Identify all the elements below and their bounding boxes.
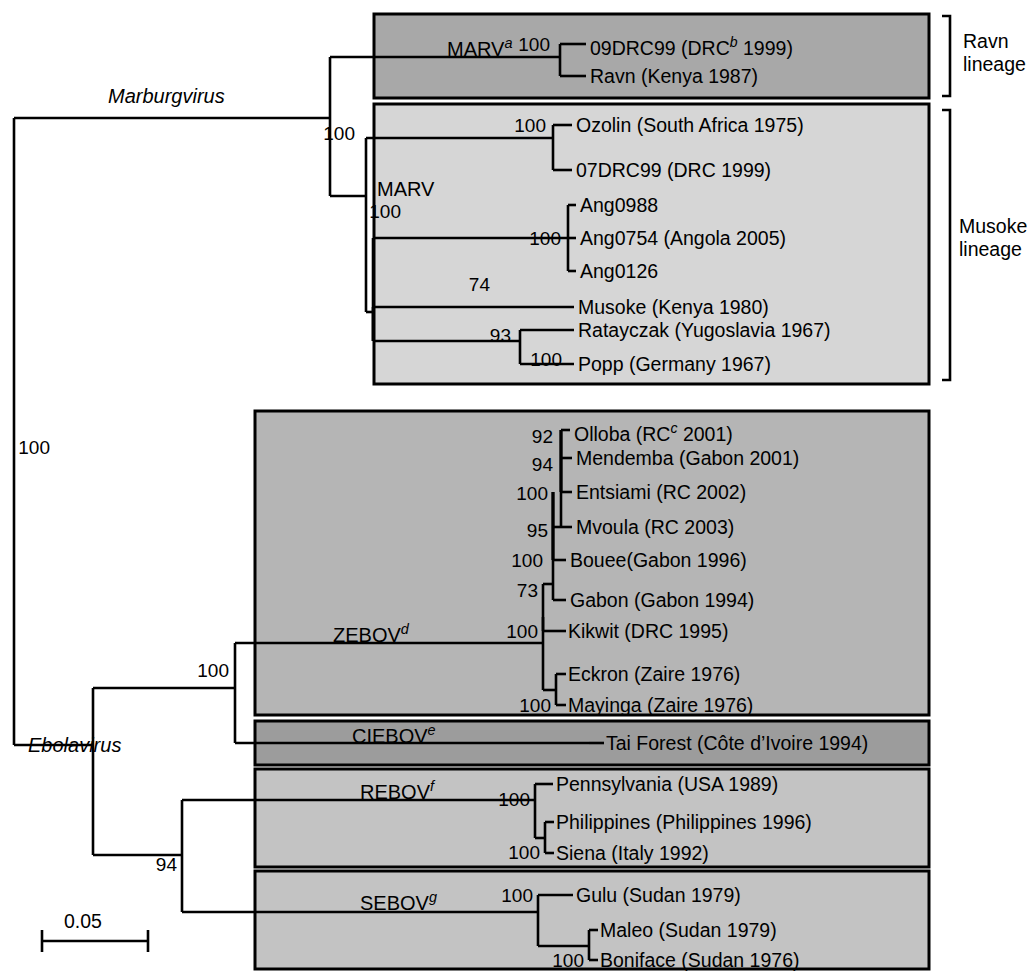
lineage-label-musoke-line1: Musoke [959, 215, 1027, 238]
bootstrap-musoke-ratayczak-popp: 93 [490, 326, 511, 345]
bootstrap-bouee-node: 100 [511, 551, 543, 570]
tip-label-ang0754: Ang0754 (Angola 2005) [580, 229, 786, 249]
clade-label-ciebov: CIEBOVe [352, 723, 436, 746]
tip-label-pennsylvania: Pennsylvania (USA 1989) [556, 775, 778, 795]
tip-label-mvoula: Mvoula (RC 2003) [576, 518, 734, 538]
tip-label-gabon: Gabon (Gabon 1994) [570, 591, 754, 611]
tip-label-philippines: Philippines (Philippines 1996) [556, 813, 812, 833]
tip-label-tai-forest: Tai Forest (Côte d’Ivoire 1994) [606, 734, 868, 754]
tip-label-ratayczak: Ratayczak (Yugoslavia 1967) [578, 321, 831, 341]
tip-label-07drc99: 07DRC99 (DRC 1999) [576, 161, 771, 181]
tip-label-kikwit: Kikwit (DRC 1995) [568, 622, 728, 642]
bootstrap-ozolin-07drc99: 100 [514, 116, 546, 135]
tip-label-musoke: Musoke (Kenya 1980) [578, 298, 769, 318]
bootstrap-philippines-siena: 100 [508, 843, 540, 862]
bootstrap-musoke-subclade: 74 [469, 275, 490, 294]
lineage-label-musoke: Musoke lineage [959, 215, 1027, 261]
tip-label-entsiami: Entsiami (RC 2002) [576, 483, 746, 503]
bootstrap-maleo-boniface: 100 [552, 951, 584, 970]
bootstrap-filovirus-root: 100 [18, 438, 50, 457]
bootstrap-musoke-crown: 100 [369, 202, 401, 221]
tip-label-bouee: Bouee(Gabon 1996) [570, 551, 747, 571]
bootstrap-rebov-crown: 100 [498, 790, 530, 809]
clade-label-sebov: SEBOVg [360, 890, 437, 913]
lineage-label-ravn-line2: lineage [963, 53, 1026, 76]
tip-label-ravn: Ravn (Kenya 1987) [590, 67, 758, 87]
bootstrap-marburgvirus-crown: 100 [323, 124, 355, 143]
scale-bar-label: 0.05 [64, 912, 102, 932]
tip-label-olloba: Olloba (RCc 2001) [574, 421, 733, 444]
bootstrap-ratayczak-popp: 100 [530, 350, 562, 369]
tip-label-maleo: Maleo (Sudan 1979) [600, 921, 777, 941]
bootstrap-sebov-crown: 100 [501, 886, 533, 905]
tip-label-eckron: Eckron (Zaire 1976) [568, 665, 740, 685]
bootstrap-mendemba-node: 94 [532, 455, 553, 474]
tip-label-mayinga: Mayinga (Zaire 1976) [568, 696, 753, 716]
bootstrap-zebov-ciebov: 100 [197, 661, 229, 680]
bootstrap-mvoula-node: 95 [527, 521, 548, 540]
bootstrap-angola-trio: 100 [529, 229, 561, 248]
bootstrap-olloba-node: 92 [532, 427, 553, 446]
clade-label-marv-ravn: MARVa [447, 36, 512, 59]
tip-label-ang0988: Ang0988 [580, 196, 658, 216]
clade-label-zebov: ZEBOVd [333, 622, 409, 645]
bootstrap-gabon-node: 73 [517, 581, 538, 600]
lineage-label-ravn-line1: Ravn [963, 30, 1026, 53]
genus-label-marburgvirus: Marburgvirus [108, 86, 225, 106]
bootstrap-entsiami-node: 100 [516, 484, 548, 503]
tip-label-09drc99: 09DRC99 (DRCb 1999) [590, 35, 793, 58]
bootstrap-zebov-crown: 100 [506, 622, 538, 641]
clade-label-marv-musoke: MARV [377, 176, 434, 199]
tip-label-mendemba: Mendemba (Gabon 2001) [576, 449, 799, 469]
tip-label-boniface: Boniface (Sudan 1976) [600, 951, 799, 971]
tip-label-popp: Popp (Germany 1967) [578, 355, 771, 375]
lineage-label-ravn: Ravn lineage [963, 30, 1026, 76]
tip-label-ozolin: Ozolin (South Africa 1975) [576, 116, 804, 136]
tip-label-siena: Siena (Italy 1992) [556, 844, 709, 864]
lineage-label-musoke-line2: lineage [959, 238, 1027, 261]
bootstrap-ravn-pair: 100 [518, 35, 550, 54]
genus-label-ebolavirus: Ebolavirus [28, 735, 121, 755]
bootstrap-eckron-mayinga: 100 [519, 696, 551, 715]
tip-label-ang0126: Ang0126 [580, 262, 658, 282]
tip-label-gulu: Gulu (Sudan 1979) [576, 886, 741, 906]
clade-label-rebov: REBOVf [360, 779, 434, 802]
bootstrap-rebov-sebov: 94 [156, 855, 177, 874]
